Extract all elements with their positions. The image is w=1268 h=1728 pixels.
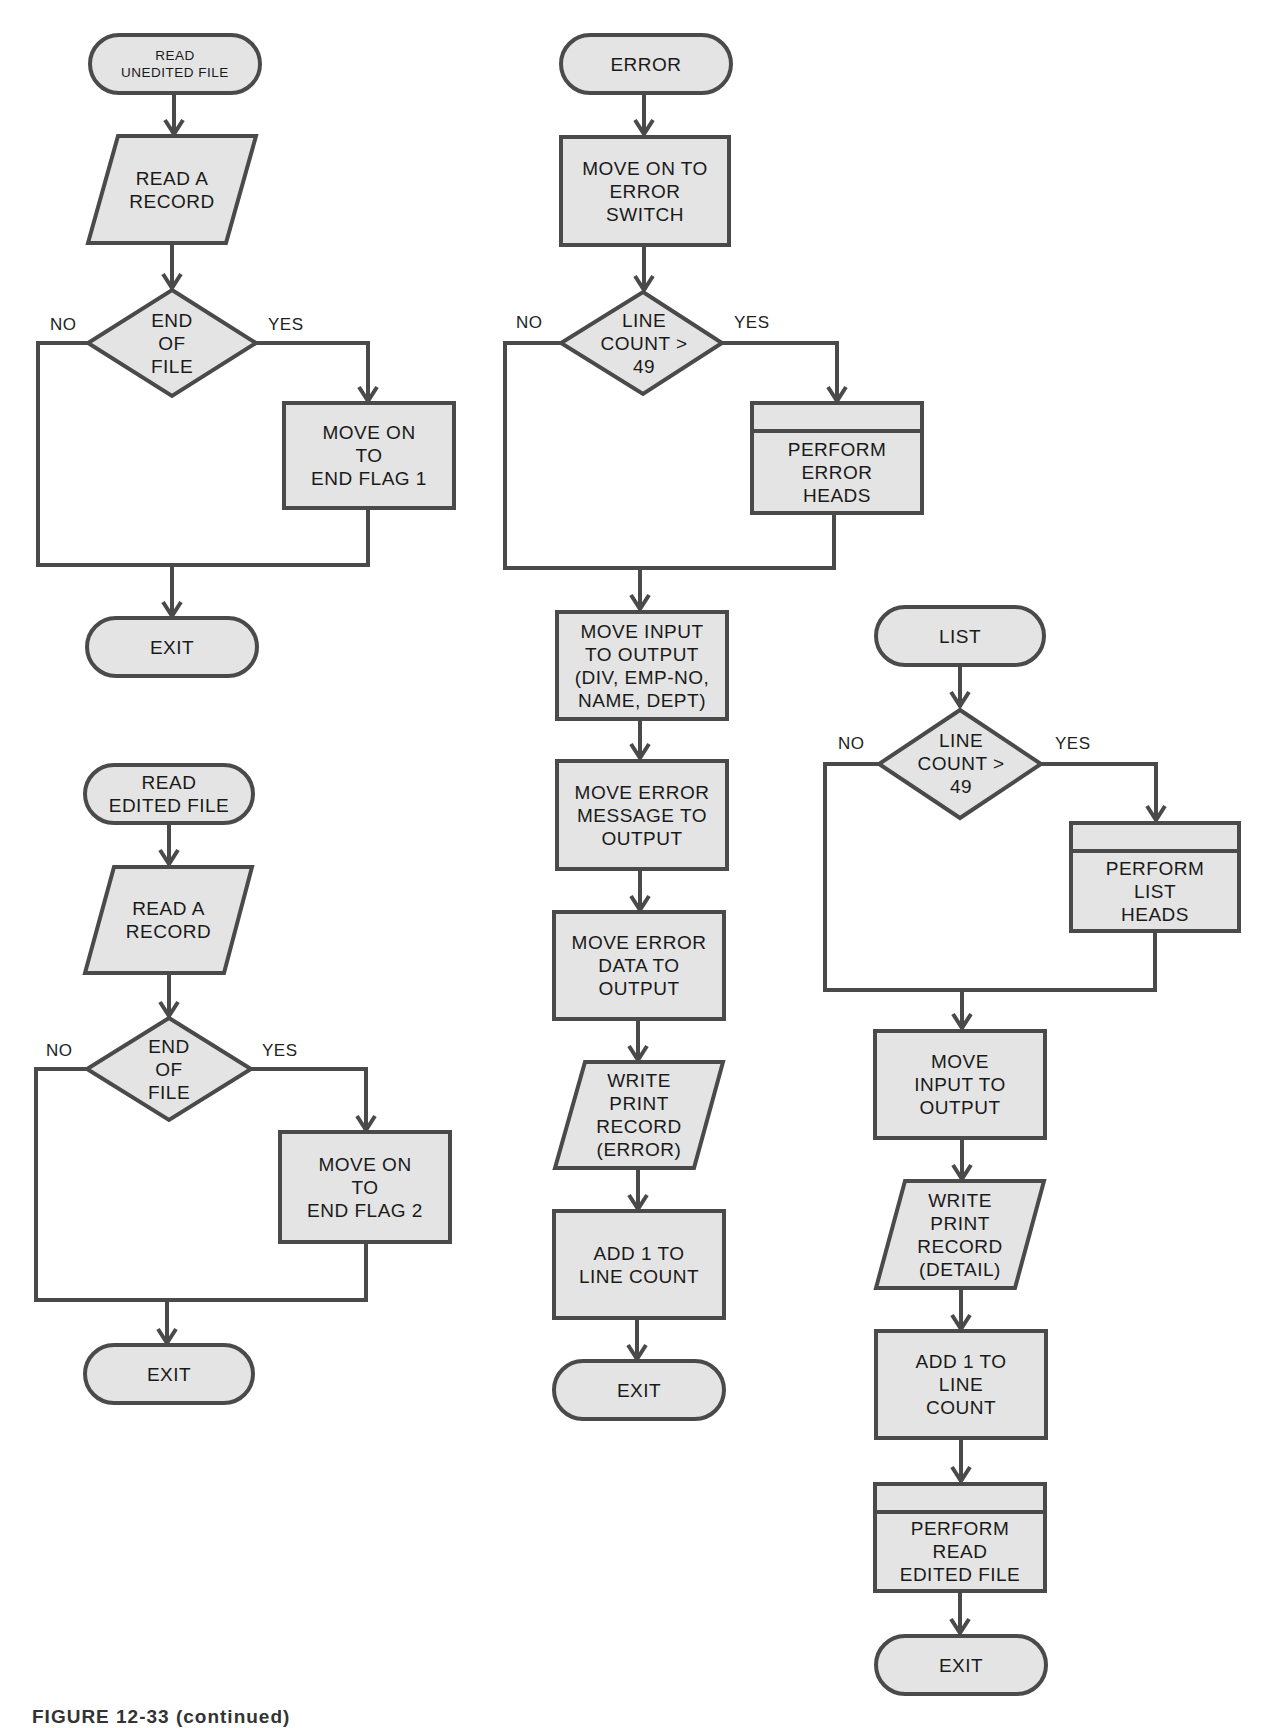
connector-line bbox=[722, 343, 837, 400]
terminal-exit-2 bbox=[85, 1345, 253, 1403]
figure-caption: FIGURE 12-33 (continued) bbox=[32, 1706, 290, 1728]
process-move-input-to-output-list bbox=[875, 1031, 1045, 1138]
io-read-a-record-1 bbox=[88, 136, 256, 243]
predefined-perform-error-heads bbox=[752, 403, 922, 513]
io-write-print-record-detail bbox=[876, 1181, 1044, 1288]
branch-label-no: NO bbox=[838, 734, 865, 754]
connector-line bbox=[256, 343, 368, 400]
decision-line-count-gt-49-list bbox=[879, 710, 1041, 818]
process-move-error-message-to-output bbox=[557, 761, 727, 869]
decision-end-of-file-2 bbox=[87, 1018, 251, 1120]
process-move-error-data-to-output bbox=[554, 912, 724, 1019]
process-move-on-to-error-switch bbox=[561, 137, 729, 245]
branch-label-no: NO bbox=[46, 1041, 73, 1061]
terminal-read-edited-file bbox=[85, 765, 253, 823]
decision-end-of-file-1 bbox=[88, 290, 256, 396]
predefined-perform-read-edited-file bbox=[875, 1484, 1045, 1591]
branch-label-no: NO bbox=[50, 315, 77, 335]
process-move-on-to-end-flag-2 bbox=[280, 1132, 450, 1242]
terminal-exit-4 bbox=[876, 1636, 1046, 1694]
flowchart-list bbox=[825, 607, 1239, 1694]
terminal-error bbox=[561, 35, 731, 93]
branch-label-yes: YES bbox=[1055, 734, 1091, 754]
process-add-1-to-line-count-list bbox=[876, 1331, 1046, 1438]
flowchart-read-unedited-file bbox=[38, 35, 454, 676]
terminal-list bbox=[876, 607, 1044, 665]
branch-label-yes: YES bbox=[262, 1041, 298, 1061]
connector-line bbox=[1041, 764, 1156, 819]
process-move-on-to-end-flag-1 bbox=[284, 403, 454, 508]
terminal-exit-3 bbox=[554, 1361, 724, 1419]
flowchart-error bbox=[505, 35, 922, 1419]
io-read-a-record-2 bbox=[85, 867, 252, 973]
process-move-input-to-output-error bbox=[557, 612, 727, 719]
branch-label-yes: YES bbox=[734, 313, 770, 333]
branch-label-yes: YES bbox=[268, 315, 304, 335]
predefined-perform-list-heads bbox=[1071, 823, 1239, 931]
flowchart-read-edited-file bbox=[36, 765, 450, 1403]
connector-line bbox=[251, 1069, 366, 1129]
branch-label-no: NO bbox=[516, 313, 543, 333]
io-write-print-record-error bbox=[555, 1062, 723, 1168]
process-add-1-to-line-count-error bbox=[554, 1211, 724, 1318]
terminal-read-unedited-file bbox=[90, 35, 260, 93]
decision-line-count-gt-49-error bbox=[561, 292, 722, 394]
terminal-exit-1 bbox=[87, 618, 257, 676]
